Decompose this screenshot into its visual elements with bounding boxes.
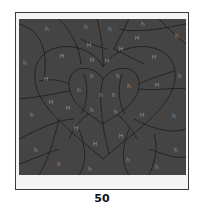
region-label-uppercase-h: H (155, 82, 160, 88)
region-label-uppercase-h: H (135, 35, 140, 41)
region-label-uppercase-h: H (105, 58, 110, 64)
region-label-lowercase-h: h (108, 26, 112, 32)
region-label-lowercase-h: h (127, 83, 131, 89)
region-label-uppercase-h: H (60, 53, 65, 59)
region-label-uppercase-h: H (90, 57, 95, 63)
region-label-lowercase-h: h (99, 92, 103, 98)
region-label-uppercase-h: H (66, 105, 71, 111)
region-label-lowercase-h: h (126, 157, 130, 163)
region-label-lowercase-h: h (141, 21, 145, 27)
region-label-lowercase-h: h (88, 166, 92, 172)
region-label-lowercase-h: h (114, 109, 118, 115)
region-label-lowercase-h: h (45, 26, 49, 32)
region-label-lowercase-h: h (90, 73, 94, 79)
region-label-uppercase-h: H (119, 46, 124, 52)
region-label-uppercase-h: H (119, 133, 124, 139)
region-label-lowercase-h: h (112, 92, 116, 98)
region-label-lowercase-h: h (77, 87, 81, 93)
region-label-lowercase-h: h (175, 33, 179, 39)
region-label-lowercase-h: h (174, 147, 178, 153)
region-label-lowercase-h: h (57, 161, 61, 167)
color-by-letter-puzzle: hhhhhhHHHHHHHHhhhHhhhhHHhhhHhHHHhhhhhh (19, 19, 186, 175)
region-label-uppercase-h: H (87, 42, 92, 48)
page-number: 50 (0, 192, 204, 205)
region-label-lowercase-h: h (23, 60, 27, 66)
region-label-uppercase-h: H (152, 54, 157, 60)
region-label-lowercase-h: h (34, 147, 38, 153)
region-label-lowercase-h: h (90, 107, 94, 113)
region-label-lowercase-h: h (116, 73, 120, 79)
region-label-lowercase-h: h (178, 73, 182, 79)
region-label-uppercase-h: H (49, 99, 54, 105)
region-label-uppercase-h: H (44, 76, 49, 82)
region-label-uppercase-h: H (93, 141, 98, 147)
region-label-lowercase-h: h (172, 113, 176, 119)
region-label-uppercase-h: H (140, 112, 145, 118)
region-label-uppercase-h: H (74, 125, 79, 131)
region-label-lowercase-h: h (30, 112, 34, 118)
region-label-lowercase-h: h (155, 164, 159, 170)
region-label-lowercase-h: h (84, 24, 88, 30)
